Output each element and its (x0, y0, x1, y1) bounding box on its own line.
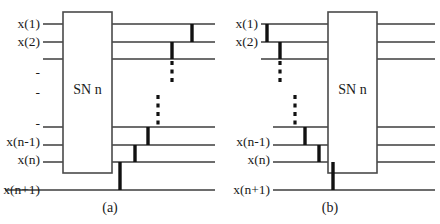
input-label-5: x(n+1) (3, 183, 40, 197)
diagram-panel-b: SN n (b) x(1)x(2)x(n-1)x(n)x(n+1) (220, 0, 440, 224)
label-ellipsis-mark-1: - (36, 66, 41, 80)
input-label-4: x(n) (18, 153, 41, 167)
panel-b-box-label: SN n (338, 83, 366, 97)
input-label-3: x(n-1) (6, 135, 40, 149)
input-label-2: x(2) (18, 35, 41, 49)
input-label-4: x(n) (248, 153, 271, 167)
panel-a-caption: (a) (102, 201, 118, 215)
input-label-5: x(n+1) (233, 183, 270, 197)
label-ellipsis-mark-3: - (36, 117, 41, 131)
input-label-1: x(1) (18, 17, 41, 31)
label-ellipsis-mark-2: - (36, 86, 41, 100)
panel-a-box-label: SN n (73, 83, 101, 97)
input-label-2: x(2) (236, 35, 259, 49)
panel-b-caption: (b) (322, 201, 338, 215)
diagram-panel-a: SN n (a) x(1)x(2)x(n-1)x(n)x(n+1)--- (0, 0, 220, 224)
input-label-1: x(1) (236, 17, 259, 31)
sorting-network-figure: SN n (a) x(1)x(2)x(n-1)x(n)x(n+1)--- SN … (0, 0, 440, 224)
input-label-3: x(n-1) (236, 135, 270, 149)
